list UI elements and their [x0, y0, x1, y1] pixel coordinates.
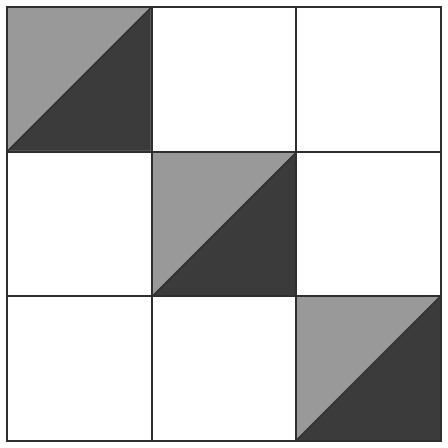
cell-r3-c3[interactable]: Row 3 Column 3 diagonal: [297, 297, 440, 440]
cell-r1-c1[interactable]: Row 1 Column 1 diagonal: [8, 8, 151, 151]
cell-r2-c3[interactable]: Row 2 Column 3 white: [297, 153, 440, 296]
cell-r2-c1[interactable]: Row 2 Column 1 white: [8, 153, 151, 296]
quilt-block-figure: Three by three quilt block with diagonal…: [0, 0, 448, 448]
block-outer-border: Row 1 Column 1 diagonal Row 1 Column 2 w…: [6, 6, 442, 442]
cell-r3-c1[interactable]: Row 3 Column 1 white: [8, 297, 151, 440]
cell-r3-c2[interactable]: Row 3 Column 2 white: [153, 297, 296, 440]
cell-r1-c2[interactable]: Row 1 Column 2 white: [153, 8, 296, 151]
pattern-grid: Row 1 Column 1 diagonal Row 1 Column 2 w…: [8, 8, 440, 440]
cell-r2-c2[interactable]: Row 2 Column 2 diagonal: [153, 153, 296, 296]
cell-r1-c3[interactable]: Row 1 Column 3 white: [297, 8, 440, 151]
